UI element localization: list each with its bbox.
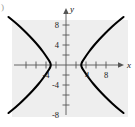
hyperbola-figure: y x -4 4 8 8 4 -4 -8 ) — [0, 0, 135, 127]
y-tick-label-8: 8 — [55, 20, 59, 30]
y-tick-label-neg8: -8 — [52, 110, 59, 120]
corner-mark: ) — [1, 2, 4, 12]
x-tick-label-8: 8 — [104, 70, 108, 80]
x-axis-label: x — [126, 60, 131, 70]
x-tick-label-neg4: -4 — [42, 70, 50, 80]
y-axis-label: y — [69, 4, 74, 14]
y-tick-label-neg4: -4 — [52, 80, 60, 90]
